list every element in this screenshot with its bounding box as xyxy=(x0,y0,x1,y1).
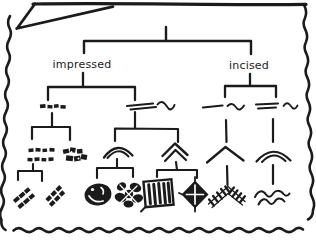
connector xyxy=(176,162,177,170)
double-line-wave-icon xyxy=(127,102,175,110)
diamond-cross-stamp-icon xyxy=(179,177,209,212)
sketch-panel: impressed incised xyxy=(0,0,316,241)
panel-border-bottom xyxy=(14,228,304,232)
panel-border-top xyxy=(33,4,306,5)
dash-row-bracket xyxy=(32,127,70,140)
arc-bracket xyxy=(97,168,133,178)
speech-tail-icon xyxy=(17,4,113,29)
line-and-wave-icon xyxy=(203,104,244,110)
diagonal-stamp-cluster-icon xyxy=(13,187,35,209)
impressed-branch-label: impressed xyxy=(53,58,112,71)
chevron-icon xyxy=(207,147,244,163)
impressed-bracket xyxy=(48,87,135,100)
tree-diagram-drawing: impressed incised xyxy=(0,0,316,241)
double-wave-icon xyxy=(255,191,290,205)
blob-stamp-cluster-icon xyxy=(63,147,88,161)
incised-bracket xyxy=(225,86,276,97)
panel-border-left xyxy=(0,16,11,230)
petal-rosette-stamp-icon xyxy=(113,181,144,209)
incised-branch-label: incised xyxy=(229,59,269,72)
connector xyxy=(226,120,227,142)
double-dash-rows-icon xyxy=(27,148,54,162)
dash-rows-bracket xyxy=(18,171,42,181)
single-arc-icon xyxy=(104,148,133,158)
hatched-chevron-icon xyxy=(209,187,246,208)
dash-row-icon xyxy=(40,104,66,109)
connector xyxy=(227,166,228,185)
double-line-and-wave-icon xyxy=(256,103,298,108)
panel-border-right xyxy=(304,6,315,220)
line-wave-bracket xyxy=(115,129,178,143)
chevron-bracket xyxy=(157,170,197,178)
double-chevron-icon xyxy=(163,144,188,162)
hatched-rectangle-stamp-icon xyxy=(138,179,173,211)
dark-oval-stamp-icon xyxy=(83,181,113,207)
double-arc-icon xyxy=(257,152,291,162)
root-bracket xyxy=(84,27,251,54)
diagonal-stamp-cluster-icon xyxy=(45,185,65,207)
